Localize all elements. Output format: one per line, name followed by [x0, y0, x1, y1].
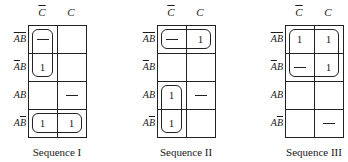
- column-header: C: [57, 6, 85, 18]
- kmap-grid: 111: [28, 25, 87, 138]
- dont-care-mark: [323, 123, 335, 124]
- kmap-cell: [57, 25, 86, 53]
- row-variable: B: [149, 117, 155, 128]
- map-caption: Sequence III: [257, 146, 348, 158]
- row-header: AB: [0, 117, 26, 128]
- column-header: C: [314, 6, 342, 18]
- dont-care-mark: [66, 95, 78, 96]
- row-header: AB: [257, 61, 283, 72]
- row-header: AB: [257, 117, 283, 128]
- row-variable: B: [277, 117, 283, 128]
- kmap-cell: [28, 81, 57, 109]
- karnaugh-map-sequence-1: CCABABABAB111Sequence I: [0, 0, 116, 162]
- column-header: C: [285, 6, 313, 18]
- map-caption: Sequence II: [129, 146, 243, 158]
- column-header: C: [186, 6, 214, 18]
- grouping-loop: [32, 113, 82, 133]
- column-variable: C: [196, 6, 203, 18]
- column-variable: C: [167, 6, 174, 18]
- row-variable: B: [20, 89, 26, 100]
- grouping-loop: [161, 85, 182, 133]
- row-header: AB: [129, 89, 155, 100]
- row-variable: B: [20, 117, 26, 128]
- kmap-cell: [186, 53, 215, 81]
- dont-care-mark: [195, 95, 207, 96]
- row-variable: B: [20, 33, 26, 44]
- karnaugh-map-sequence-3: CCABABABAB111Sequence III: [257, 0, 348, 162]
- row-header: AB: [129, 117, 155, 128]
- row-variable: B: [149, 61, 155, 72]
- kmap-grid: 111: [285, 25, 344, 138]
- column-variable: C: [38, 6, 45, 18]
- karnaugh-map-sequence-2: CCABABABAB111Sequence II: [129, 0, 245, 162]
- map-caption: Sequence I: [0, 146, 114, 158]
- row-variable: B: [277, 89, 283, 100]
- kmap-cell: [57, 53, 86, 81]
- grouping-loop: [32, 29, 53, 77]
- kmap-cell: [157, 53, 186, 81]
- column-variable: C: [67, 6, 74, 18]
- row-variable: B: [277, 61, 283, 72]
- row-header: AB: [0, 33, 26, 44]
- kmap-cell: [314, 81, 343, 109]
- grouping-loop: [289, 29, 339, 77]
- row-header: AB: [0, 61, 26, 72]
- row-header: AB: [257, 33, 283, 44]
- row-header: AB: [0, 89, 26, 100]
- kmap-cell: [285, 81, 314, 109]
- column-header: C: [28, 6, 56, 18]
- kmap-cell: [186, 109, 215, 137]
- row-header: AB: [257, 89, 283, 100]
- kmap-cell: [285, 109, 314, 137]
- row-variable: B: [20, 61, 26, 72]
- kmap-grid: 111: [157, 25, 216, 138]
- row-variable: B: [149, 89, 155, 100]
- row-header: AB: [129, 33, 155, 44]
- grouping-loop: [161, 29, 211, 49]
- kmap-cell: [186, 81, 215, 109]
- column-header: C: [157, 6, 185, 18]
- row-variable: B: [149, 33, 155, 44]
- column-variable: C: [295, 6, 302, 18]
- kmap-cell: [314, 109, 343, 137]
- row-variable: B: [277, 33, 283, 44]
- column-variable: C: [324, 6, 331, 18]
- kmap-cell: [57, 81, 86, 109]
- row-header: AB: [129, 61, 155, 72]
